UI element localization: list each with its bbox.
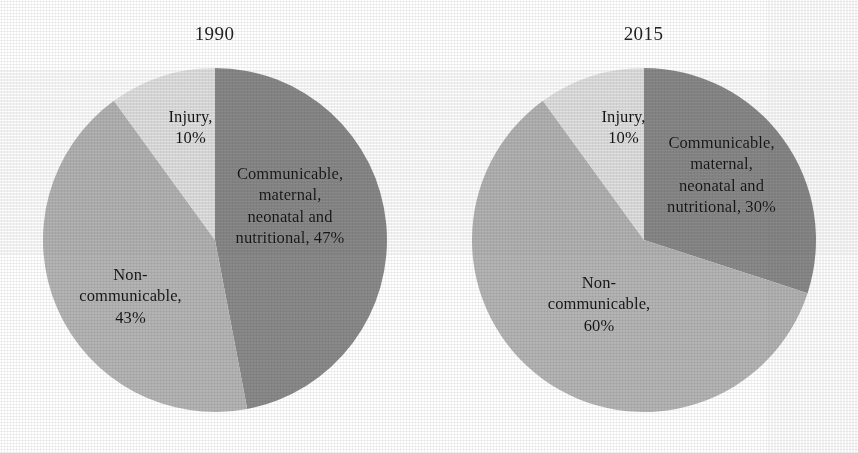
pie-label-noncommunicable-1990: Non- communicable, 43% [51,264,211,328]
pie-panel-2015: 2015 Injury, 10% Communicable, maternal,… [429,0,858,453]
pie-label-injury-1990: Injury, 10% [131,106,251,149]
pie-label-communicable-2015: Communicable, maternal, neonatal and nut… [622,132,822,218]
pie-label-communicable-1990: Communicable, maternal, neonatal and nut… [188,163,393,249]
pie-title-1990: 1990 [0,24,429,45]
pie-title-2015: 2015 [429,24,858,45]
pie-chart-2015: Injury, 10% Communicable, maternal, neon… [472,68,816,412]
pie-label-noncommunicable-2015: Non- communicable, 60% [512,272,687,336]
pie-chart-1990: Injury, 10% Communicable, maternal, neon… [43,68,387,412]
figure-two-pie-charts: 1990 Injury, 10% Communicable, maternal,… [0,0,858,453]
pie-panel-1990: 1990 Injury, 10% Communicable, maternal,… [0,0,429,453]
